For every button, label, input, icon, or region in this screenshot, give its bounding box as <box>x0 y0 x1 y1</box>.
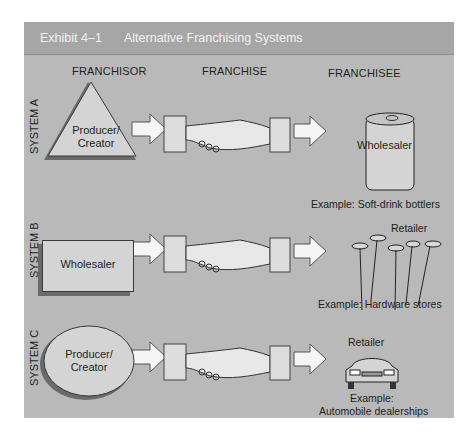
exhibit-title: Alternative Franchising Systems <box>124 31 303 45</box>
handshake-icon <box>130 114 340 160</box>
handshake-icon <box>130 342 340 388</box>
system-a-franchisee-text: Wholesaler <box>357 139 412 151</box>
system-a-example: Example: Soft-drink bottlers <box>311 198 440 210</box>
car-icon <box>342 352 402 392</box>
system-b-franchisee-text: Retailer <box>391 222 427 234</box>
handshake-icon <box>130 234 340 280</box>
column-label-franchisee: FRANCHISEE <box>328 67 401 79</box>
system-c-example-line2: Automobile dealerships <box>319 405 428 417</box>
system-a-franchisor-text: Producer/ Creator <box>58 124 134 150</box>
system-b-example: Example: Hardware stores <box>318 298 442 310</box>
column-label-franchisor: FRANCHISOR <box>72 65 147 77</box>
system-c-franchisee-text: Retailer <box>348 336 384 348</box>
exhibit-header: Exhibit 4–1 Alternative Franchising Syst… <box>24 22 454 55</box>
column-label-franchise: FRANCHISE <box>202 65 267 77</box>
soda-can-icon <box>362 110 418 194</box>
system-a-label: SYSTEM A <box>28 99 40 154</box>
system-b-franchisor-text: Wholesaler <box>44 258 132 271</box>
exhibit-number: Exhibit 4–1 <box>40 31 102 45</box>
exhibit-frame: Exhibit 4–1 Alternative Franchising Syst… <box>24 22 454 418</box>
system-c-example-line1: Example: <box>350 392 394 404</box>
system-c-franchisor-text: Producer/ Creator <box>48 348 130 374</box>
